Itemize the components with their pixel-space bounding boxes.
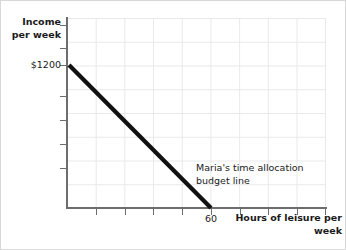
grid-top-edge [67, 18, 326, 19]
budget-line-annotation: Maria's time allocation budget line [196, 162, 304, 187]
y-axis-tick-4 [60, 120, 68, 121]
x-axis-line [66, 207, 327, 209]
x-axis-tick-2 [153, 208, 154, 215]
y-axis-tick-1 [60, 48, 68, 49]
y-axis-tick-2 [60, 65, 68, 66]
x-axis-tick-3 [182, 208, 183, 215]
x-axis-value-label: 60 [191, 213, 231, 224]
y-axis-tick-6 [60, 168, 68, 169]
y-axis-tick-5 [60, 144, 68, 145]
y-axis-tick-3 [60, 96, 68, 97]
grid-right-edge [325, 18, 326, 208]
x-axis-tick-1 [125, 208, 126, 215]
budget-line-chart-figure: Income per week Hours of leisure per wee… [0, 0, 346, 250]
y-axis-line [66, 17, 68, 209]
x-axis-title: Hours of leisure per week [234, 212, 342, 237]
y-axis-title: Income per week [3, 16, 61, 41]
y-axis-tick-0 [60, 25, 68, 26]
y-axis-value-label: $1200 [7, 59, 61, 70]
x-axis-tick-0 [96, 208, 97, 215]
